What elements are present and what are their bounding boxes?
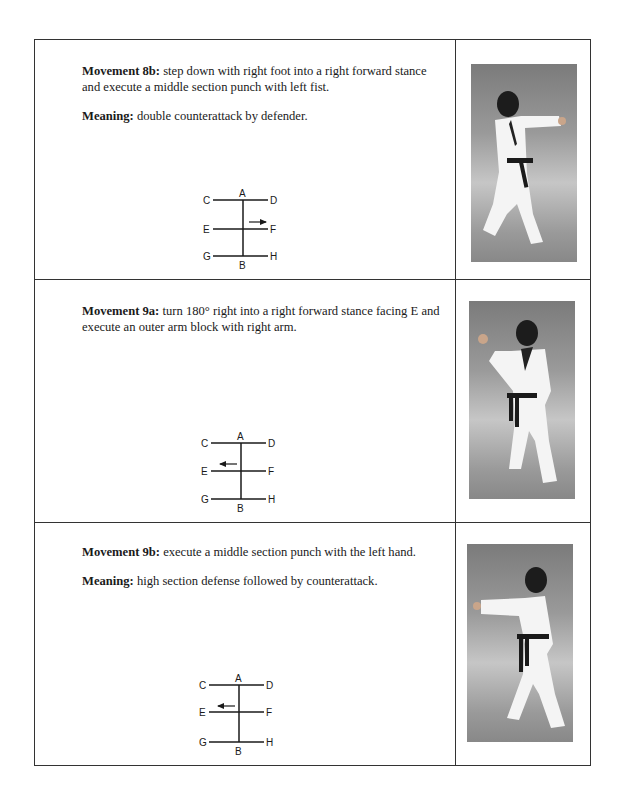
direction-diagram-9a (211, 443, 266, 499)
svg-text:E: E (199, 707, 206, 718)
photo-movement-9a (469, 301, 575, 499)
svg-text:A: A (239, 188, 246, 199)
svg-text:B: B (237, 503, 244, 514)
svg-text:A: A (237, 431, 244, 442)
svg-text:G: G (201, 494, 209, 505)
photo-movement-8b (471, 64, 577, 262)
svg-text:H: H (270, 251, 277, 262)
svg-text:F: F (270, 224, 276, 235)
svg-text:E: E (201, 466, 208, 477)
svg-text:B: B (235, 746, 242, 757)
svg-text:D: D (270, 195, 277, 206)
svg-text:F: F (266, 707, 272, 718)
svg-text:B: B (239, 260, 246, 271)
svg-text:D: D (266, 680, 273, 691)
svg-text:H: H (266, 737, 273, 748)
direction-diagram-8b (213, 200, 268, 256)
svg-text:F: F (268, 466, 274, 477)
photo-movement-9b (467, 544, 573, 742)
direction-diagram-9b (209, 685, 264, 742)
svg-text:H: H (268, 494, 275, 505)
svg-text:E: E (203, 224, 210, 235)
svg-text:A: A (235, 673, 242, 684)
svg-text:G: G (199, 737, 207, 748)
svg-text:C: C (203, 195, 210, 206)
svg-text:C: C (201, 438, 208, 449)
svg-text:C: C (199, 680, 206, 691)
svg-text:D: D (268, 438, 275, 449)
svg-text:G: G (203, 251, 211, 262)
